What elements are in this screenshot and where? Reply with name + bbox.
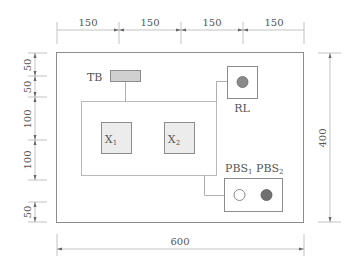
left-dimension-chain	[28, 53, 47, 222]
contactor-x2: X2	[165, 123, 195, 154]
pushbutton-1-subscript: 1	[248, 168, 252, 176]
terminal-block	[111, 71, 141, 82]
top-dim-label-2: 150	[140, 17, 159, 28]
pushbutton-box	[225, 179, 283, 212]
contactor-x1-label: X	[105, 133, 113, 146]
left-dim-label-1: 50	[22, 59, 33, 72]
left-dimension-arrows	[34, 53, 37, 222]
pushbutton-1-icon	[234, 190, 245, 201]
left-dim-label-4: 100	[22, 150, 33, 169]
left-dim-label-2: 50	[22, 81, 33, 94]
left-dim-label-5: 50	[22, 206, 33, 219]
pushbutton-2-icon	[261, 190, 272, 201]
indicator-lamp-label: RL	[234, 102, 250, 115]
top-dim-label-3: 150	[202, 17, 221, 28]
pushbutton-2-subscript: 2	[279, 168, 283, 176]
bottom-dim-label: 600	[170, 236, 189, 247]
contactor-x1: X1	[102, 123, 132, 154]
left-dim-label-3: 100	[22, 109, 33, 128]
top-dim-label-1: 150	[78, 17, 97, 28]
contactor-x1-subscript: 1	[113, 139, 117, 147]
indicator-lamp-icon	[237, 77, 248, 88]
top-dim-label-4: 150	[264, 17, 283, 28]
right-dim-label: 400	[317, 128, 328, 147]
pushbutton-1-label: PBS	[225, 162, 248, 175]
contactor-x2-label: X	[168, 133, 176, 146]
panel-layout-diagram: 150 150 150 150 50 50 100 100 50	[0, 0, 356, 272]
contactor-x2-subscript: 2	[176, 139, 180, 147]
terminal-block-label: TB	[87, 71, 102, 84]
pushbutton-2-label: PBS	[256, 162, 279, 175]
